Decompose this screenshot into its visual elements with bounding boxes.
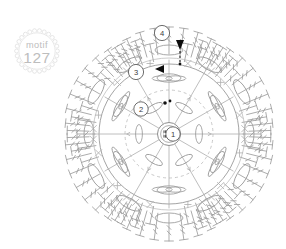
chart-markers (155, 40, 184, 105)
round-badge-4: 4 (154, 25, 169, 40)
round-badge-label: 2 (139, 105, 143, 114)
crochet-chart: 1234 (52, 8, 286, 249)
round-badge-label: 4 (160, 29, 164, 38)
round-badge-1: 1 (166, 127, 180, 141)
badge-number: 127 (23, 49, 51, 66)
motif-chart-page: motif 127 1234 (0, 0, 286, 249)
round-badge-label: 3 (134, 68, 138, 77)
round-badge-label: 1 (171, 130, 175, 139)
round-badge-2: 2 (134, 102, 148, 116)
round-badge-3: 3 (128, 64, 143, 79)
